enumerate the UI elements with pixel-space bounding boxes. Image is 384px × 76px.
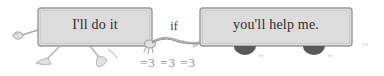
tow-rope-icon — [153, 38, 200, 43]
motion-marks-label: =3 =3 =3 — [140, 55, 230, 71]
svg-text:,,: ,, — [362, 33, 368, 47]
clause1-arm-icon — [13, 30, 38, 39]
svg-text:,,: ,, — [259, 48, 264, 58]
svg-text:,,: ,, — [328, 48, 333, 58]
illustration-canvas: ,, ,, ,, I'll do it if you'll help me. =… — [0, 0, 384, 76]
clause1-label: I'll do it — [38, 17, 152, 33]
clause2-wheels-icon: ,, ,, — [234, 46, 333, 58]
clause2-label: you'll help me. — [200, 17, 352, 33]
clause1-legs-icon — [36, 46, 117, 67]
connector-label: if — [152, 19, 196, 34]
edge-mark-icon: ,, — [362, 33, 368, 47]
